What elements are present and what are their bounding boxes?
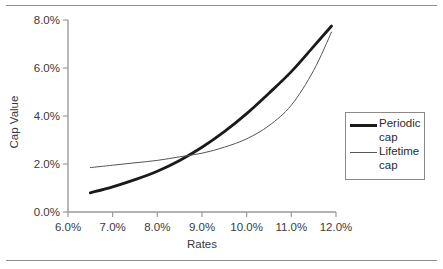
y-tick-label: 8.0% [14,14,60,26]
legend-label-periodic-line1: Periodic [379,117,421,129]
axis-lines [68,20,336,212]
series-line-lifetime-cap [90,32,331,168]
y-tick-label: 4.0% [14,110,60,122]
y-tick-label: 6.0% [14,62,60,74]
legend-label-lifetime-line2: cap [379,159,398,171]
legend-label-lifetime-line1: Lifetime [379,145,419,157]
legend-line-swatch-periodic [350,124,377,127]
x-tick-label: 10.0% [230,221,263,233]
x-tick-label: 6.0% [55,221,81,233]
y-tick-label: 0.0% [14,206,60,218]
legend-label-periodic-line2: cap [379,131,398,143]
x-tick-label: 9.0% [189,221,215,233]
x-tick-label: 12.0% [320,221,353,233]
legend-label-lifetime: Lifetime cap [379,145,425,172]
y-axis-title: Cap Value [8,87,20,157]
x-axis-title: Rates [68,238,336,250]
x-tick-label: 11.0% [275,221,307,233]
y-tick-label: 2.0% [14,158,60,170]
legend-label-periodic: Periodic cap [379,117,425,144]
chart-legend: Periodic cap Lifetime cap [345,112,425,180]
x-tick-label: 7.0% [100,221,126,233]
axis-ticks [63,20,336,217]
x-tick-label: 8.0% [144,221,170,233]
chart-figure: 0.0%2.0%4.0%6.0%8.0% 6.0%7.0%8.0%9.0%10.… [0,0,443,269]
series-line-periodic-cap [90,26,331,193]
legend-line-swatch-lifetime [350,152,377,153]
data-series-lines [90,26,331,193]
